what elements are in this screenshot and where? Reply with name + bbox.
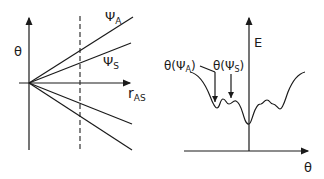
left-x-axis-label: rAS bbox=[128, 85, 146, 103]
energy-curve bbox=[190, 72, 305, 124]
theta-psi-a-label: θ(ΨA) bbox=[164, 59, 196, 74]
psi-a-line bbox=[29, 17, 133, 83]
right-panel: θ(ΨA) θ(ΨS) E θ bbox=[164, 18, 312, 175]
right-y-axis-label: E bbox=[254, 35, 262, 50]
left-panel: θ ΨA ΨS rAS bbox=[14, 9, 146, 150]
psi-s-label: ΨS bbox=[103, 54, 119, 71]
diagram-canvas: θ ΨA ΨS rAS θ(ΨA) θ(ΨS) E θ bbox=[0, 0, 324, 179]
right-x-axis-label: θ bbox=[304, 160, 312, 175]
left-y-axis-label: θ bbox=[14, 44, 22, 59]
psi-a-label: ΨA bbox=[105, 9, 122, 26]
theta-psi-s-label: θ(ΨS) bbox=[213, 59, 244, 74]
